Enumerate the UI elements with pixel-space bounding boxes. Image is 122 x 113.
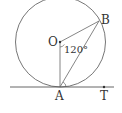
- label-A: A: [54, 89, 64, 103]
- angle-label: 120°: [64, 44, 88, 55]
- label-B: B: [101, 13, 110, 27]
- angle-arc-BAT: [63, 82, 66, 87]
- point-T: [103, 86, 105, 88]
- circle: [16, 0, 106, 87]
- geometry-diagram: O B A T 120°: [0, 0, 122, 113]
- point-O: [59, 41, 61, 43]
- label-T: T: [100, 89, 108, 103]
- label-O: O: [48, 35, 58, 49]
